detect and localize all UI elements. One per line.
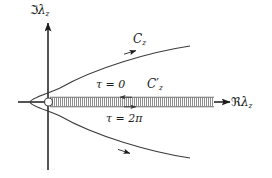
real-part-symbol: ℜ: [231, 95, 241, 109]
imaginary-axis-subscript: z: [46, 9, 50, 18]
imaginary-axis-variable: λ: [38, 3, 46, 17]
tau-two-pi-label: τ = 2π: [106, 113, 143, 124]
branch-point-open-circle: [45, 98, 53, 106]
tau-zero-label: τ = 0: [96, 79, 125, 90]
imaginary-part-symbol: ℑ: [30, 3, 38, 17]
contour-cz-prime-label: C′z: [147, 78, 163, 92]
branch-cut-hatching: [50, 98, 214, 107]
contour-cz-label: Cz: [133, 33, 146, 47]
contour-cz-upper-direction-arrow: [124, 51, 136, 55]
figure-canvas: [0, 0, 272, 178]
contour-cz-upper-branch: [30, 46, 190, 102]
contour-cz-prime-subscript: z: [159, 83, 163, 92]
branch-cut: [45, 97, 215, 107]
real-axis-variable: λ: [241, 95, 249, 109]
complex-plane-contour-figure: ℑλz ℜλz Cz C′z τ = 0 τ = 2π: [0, 0, 272, 178]
imaginary-axis-label: ℑλz: [30, 4, 50, 18]
contour-cz-prime-letter: C: [147, 77, 156, 91]
contour-cz-lower-branch: [30, 102, 190, 158]
real-axis-subscript: z: [249, 101, 253, 110]
contour-cz-subscript: z: [142, 38, 146, 47]
contour-cz-letter: C: [133, 32, 142, 46]
real-axis-label: ℜλz: [231, 96, 253, 110]
contour-cz-lower-direction-arrow: [118, 149, 130, 153]
